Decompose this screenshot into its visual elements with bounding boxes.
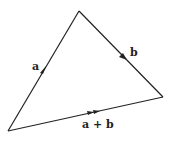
label-a: a (32, 61, 39, 72)
vector-triangle-diagram: a b a + b (0, 0, 174, 143)
arrow-sum-1-icon (87, 111, 94, 115)
label-b: b (130, 47, 138, 58)
arrow-b-icon (119, 53, 127, 60)
label-a-plus-b: a + b (82, 119, 114, 130)
edge-b (79, 11, 163, 97)
arrow-a-icon (40, 66, 46, 74)
